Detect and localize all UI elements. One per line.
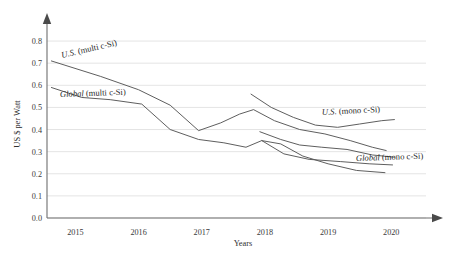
y-tick-label: 0.7	[32, 59, 42, 68]
y-tick-label: 0.5	[32, 103, 42, 112]
chart-background	[0, 0, 454, 265]
x-tick-label: 2015	[67, 228, 83, 237]
x-tick-label: 2020	[383, 228, 399, 237]
x-tick-label: 2019	[320, 228, 336, 237]
x-tick-label: 2018	[257, 228, 273, 237]
y-tick-label: 0.8	[32, 37, 42, 46]
x-axis-title: Years	[234, 239, 253, 248]
y-tick-label: 0.4	[32, 126, 42, 135]
y-tick-label: 0.1	[32, 192, 42, 201]
y-axis-title: US $ per Watt	[13, 100, 22, 148]
x-tick-label: 2017	[194, 228, 210, 237]
chart-canvas: 0.00.10.20.30.40.50.60.70.8 201520162017…	[0, 0, 454, 265]
solar-price-line-chart: 0.00.10.20.30.40.50.60.70.8 201520162017…	[0, 0, 454, 265]
y-tick-label: 0.0	[32, 214, 42, 223]
x-tick-label: 2016	[130, 228, 146, 237]
y-tick-label: 0.2	[32, 170, 42, 179]
y-tick-label: 0.6	[32, 81, 42, 90]
y-axis-tick-labels: 0.00.10.20.30.40.50.60.70.8	[32, 37, 42, 223]
y-tick-label: 0.3	[32, 148, 42, 157]
